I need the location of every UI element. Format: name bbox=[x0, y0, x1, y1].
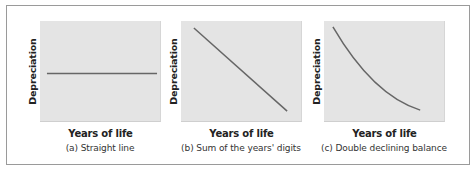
sum-of-years-digits-series bbox=[194, 28, 287, 111]
sum-of-years-digits-chart bbox=[181, 21, 301, 121]
straight-line-chart bbox=[40, 21, 160, 121]
caption-a: (a) Straight line bbox=[20, 143, 180, 153]
y-axis-label-a: Depreciation bbox=[25, 21, 39, 122]
y-axis-label-text: Depreciation bbox=[27, 38, 38, 104]
plot-area-straight-line bbox=[40, 21, 161, 122]
caption-c: (c) Double declining balance bbox=[304, 143, 464, 153]
x-axis-label-b: Years of life bbox=[181, 128, 302, 139]
plot-area-double-declining-balance bbox=[324, 21, 445, 122]
x-axis-label-c: Years of life bbox=[324, 128, 445, 139]
y-axis-label-text: Depreciation bbox=[311, 38, 322, 104]
y-axis-label-c: Depreciation bbox=[309, 21, 323, 122]
y-axis-label-text: Depreciation bbox=[168, 38, 179, 104]
caption-b: (b) Sum of the years' digits bbox=[161, 143, 321, 153]
x-axis-label-a: Years of life bbox=[40, 128, 161, 139]
y-axis-label-b: Depreciation bbox=[166, 21, 180, 122]
plot-area-sum-of-years-digits bbox=[181, 21, 302, 122]
double-declining-balance-chart bbox=[324, 21, 444, 121]
double-declining-balance-series bbox=[333, 27, 420, 110]
